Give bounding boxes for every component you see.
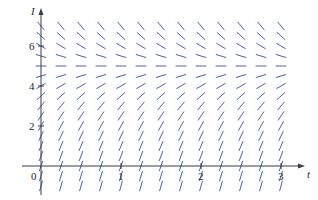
slope-segment	[99, 141, 103, 150]
slope-segment	[100, 181, 103, 191]
slope-segment	[176, 55, 186, 58]
slope-segment	[216, 55, 226, 58]
slope-segment	[119, 151, 122, 160]
slope-segment	[197, 93, 204, 100]
slope-segment	[259, 131, 263, 140]
slope-segment	[137, 43, 146, 48]
slope-segment	[218, 102, 224, 110]
slope-segment	[179, 122, 184, 131]
slope-segment	[56, 55, 66, 58]
i-tick-label: 4	[29, 80, 35, 92]
slope-segment	[119, 122, 124, 131]
slope-segment	[76, 55, 86, 58]
slope-segment	[198, 22, 204, 30]
slope-segment	[136, 75, 146, 78]
slope-segment	[279, 122, 284, 131]
slope-segment	[238, 112, 244, 120]
slope-segment	[119, 131, 123, 140]
slope-segment	[277, 83, 286, 88]
slope-segment	[218, 22, 224, 30]
slope-segment	[257, 43, 266, 48]
slope-segment	[138, 22, 144, 30]
slope-segment	[99, 122, 104, 131]
slope-segment	[239, 141, 243, 150]
slope-segment	[59, 122, 64, 131]
slope-segment	[237, 83, 246, 88]
slope-segment	[219, 131, 223, 140]
slope-segment	[117, 33, 124, 40]
slope-segment	[257, 33, 264, 40]
slope-segment	[98, 112, 104, 120]
slope-segment	[260, 181, 263, 191]
slope-segment	[240, 171, 243, 181]
slope-segment	[240, 181, 243, 191]
slope-segment	[238, 22, 244, 30]
slope-segment	[60, 181, 63, 191]
slope-segment	[120, 181, 123, 191]
slope-segment	[60, 171, 63, 181]
slope-segment	[177, 93, 184, 100]
slope-segment	[117, 93, 124, 100]
slope-segment	[116, 75, 126, 78]
slope-segment	[57, 83, 66, 88]
slope-segment	[179, 131, 183, 140]
slope-segment	[197, 43, 206, 48]
slope-segment	[139, 131, 143, 140]
slope-segment	[139, 141, 143, 150]
slope-segment	[259, 151, 262, 160]
slope-segment	[180, 181, 183, 191]
slope-segment	[277, 93, 284, 100]
slope-segment	[156, 55, 166, 58]
slope-segment	[280, 181, 283, 191]
t-tick-label: 2	[198, 170, 204, 182]
slope-segment	[199, 141, 203, 150]
slope-segment	[198, 112, 204, 120]
slope-segment	[157, 43, 166, 48]
slope-segment	[139, 122, 144, 131]
slope-segment	[236, 55, 246, 58]
slope-segment	[158, 22, 164, 30]
slope-segment	[137, 93, 144, 100]
slope-segment	[238, 102, 244, 110]
slope-segment	[57, 93, 64, 100]
slope-segment	[117, 43, 126, 48]
slope-segment	[196, 55, 206, 58]
slope-segment	[239, 122, 244, 131]
i-axis-label: I	[30, 5, 36, 17]
slope-segment	[77, 83, 86, 88]
slope-segment	[217, 93, 224, 100]
slope-segment	[177, 33, 184, 40]
slope-segment	[177, 43, 186, 48]
slope-segment	[97, 33, 104, 40]
slope-segment	[236, 75, 246, 78]
slope-segment	[57, 33, 64, 40]
slope-segment	[197, 33, 204, 40]
slope-segment	[79, 122, 84, 131]
slope-segment	[220, 171, 223, 181]
slope-segment	[176, 75, 186, 78]
i-axis-arrow-icon	[39, 8, 44, 15]
slope-segment	[178, 112, 184, 120]
slope-segment	[118, 102, 124, 110]
slope-segment	[259, 122, 264, 131]
slope-segment	[159, 122, 164, 131]
slope-segment	[178, 102, 184, 110]
slope-segment	[199, 122, 204, 131]
slope-segment	[258, 112, 264, 120]
slope-segment	[217, 83, 226, 88]
slope-field-plot: t I 0123246	[0, 0, 318, 200]
slope-segment	[199, 131, 203, 140]
slope-segment	[79, 131, 83, 140]
slope-segment	[98, 102, 104, 110]
slope-segment	[76, 75, 86, 78]
slope-segment	[239, 131, 243, 140]
slope-segment	[118, 22, 124, 30]
slope-segment	[57, 43, 66, 48]
slope-segment	[99, 151, 102, 160]
slope-segment	[139, 151, 142, 160]
slope-segment	[277, 33, 284, 40]
t-axis-arrow-icon	[298, 164, 305, 169]
slope-segment	[279, 151, 282, 160]
slope-segment	[276, 55, 286, 58]
slope-segment	[237, 33, 244, 40]
